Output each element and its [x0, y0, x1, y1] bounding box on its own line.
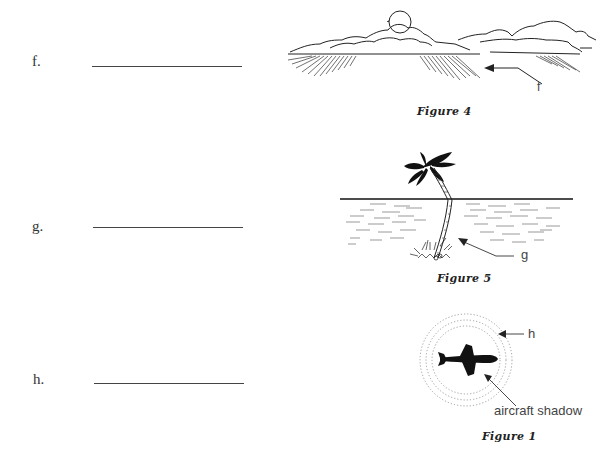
callout-h: h: [528, 326, 535, 341]
question-label-f: f.: [32, 53, 41, 70]
figure-5-caption: Figure 5: [437, 272, 491, 285]
figure-1-caption: Figure 1: [482, 430, 536, 443]
aircraft-shadow-label: aircraft shadow: [494, 403, 582, 418]
question-label-h: h.: [33, 371, 44, 388]
answer-blank-h[interactable]: [94, 383, 244, 384]
aircraft-shadow-illustration: [400, 300, 610, 474]
figure-1: h aircraft shadow Figure 1: [400, 300, 610, 474]
callout-f: f: [537, 80, 540, 94]
figure-4-caption: Figure 4: [417, 105, 471, 118]
callout-g: g: [521, 247, 528, 262]
answer-blank-f[interactable]: [92, 66, 242, 67]
answer-blank-g[interactable]: [93, 227, 243, 228]
question-label-g: g.: [32, 218, 43, 235]
figure-4: f Figure 4: [280, 0, 610, 130]
figure-5: g Figure 5: [330, 150, 610, 300]
